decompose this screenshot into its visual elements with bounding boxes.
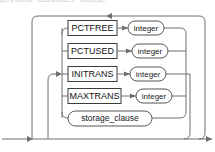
row-pctused: PCTUSED integer bbox=[68, 44, 168, 59]
connector-arrow-pctused-icon bbox=[126, 49, 132, 54]
spine-bottom-curve bbox=[62, 112, 68, 118]
connector-arrow-maxtrans-icon bbox=[130, 94, 136, 99]
merge-bottom-curve bbox=[152, 112, 186, 118]
nonterminal-label-storage-clause: storage_clause bbox=[81, 113, 139, 123]
argument-label-pctused: integer bbox=[138, 47, 163, 56]
row-storage-clause: storage_clause bbox=[68, 111, 152, 126]
keyword-label-maxtrans: MAXTRANS bbox=[69, 91, 119, 101]
spine-top-curve bbox=[62, 28, 68, 34]
argument-label-pctfree: integer bbox=[134, 24, 159, 33]
keyword-label-initrans: INITRANS bbox=[71, 69, 113, 79]
keyword-label-pctfree: PCTFREE bbox=[71, 23, 113, 33]
railroad-diagram: physical_attributes_clause bbox=[0, 0, 215, 152]
row-initrans: INITRANS integer bbox=[68, 67, 166, 82]
inner-left-riser bbox=[48, 74, 57, 139]
connector-arrow-initrans-icon bbox=[124, 72, 130, 77]
keyword-label-pctused: PCTUSED bbox=[71, 46, 115, 56]
row-maxtrans: MAXTRANS integer bbox=[68, 89, 172, 104]
right-exit-riser bbox=[184, 74, 190, 139]
argument-label-initrans: integer bbox=[136, 70, 161, 79]
connector-arrow-pctfree-icon bbox=[122, 26, 128, 31]
track-exit-arrow-icon bbox=[206, 136, 212, 142]
branch-entry-arrow-icon bbox=[56, 71, 62, 77]
row-pctfree: PCTFREE integer bbox=[68, 21, 164, 36]
railroad-svg: PCTFREE integer PCTUSED integer INITRANS… bbox=[0, 0, 215, 152]
merge-top-curve bbox=[164, 28, 186, 34]
loop-back-top-arrow-icon bbox=[106, 13, 112, 19]
argument-label-maxtrans: integer bbox=[142, 92, 167, 101]
